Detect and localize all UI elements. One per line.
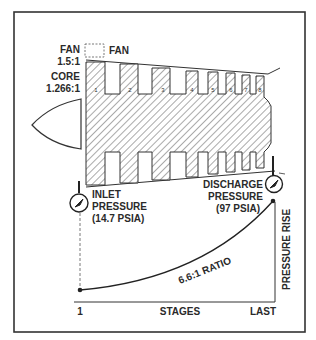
discharge-label-line1: DISCHARGE bbox=[203, 179, 263, 190]
inlet-label-line2: PRESSURE bbox=[92, 201, 147, 212]
fan-ratio-title: FAN bbox=[60, 44, 80, 55]
discharge-pressure-gauge-icon bbox=[266, 156, 286, 193]
core-ratio-value: 1.266:1 bbox=[46, 83, 80, 94]
casing-lip bbox=[268, 68, 280, 74]
x-axis-end-label: LAST bbox=[250, 306, 276, 317]
inlet-label-line3: (14.7 PSIA) bbox=[92, 213, 144, 224]
discharge-label-line2: PRESSURE bbox=[208, 191, 263, 202]
core-ratio-title: CORE bbox=[51, 71, 80, 82]
compressor-diagram: FAN 1.5:1 CORE 1.266:1 FAN 1 2 3 4 5 6 7… bbox=[0, 0, 316, 340]
discharge-label-line3: (97 PSIA) bbox=[216, 203, 260, 214]
fan-ratio-value: 1.5:1 bbox=[57, 56, 80, 67]
inlet-pressure-gauge-icon bbox=[70, 181, 88, 212]
compressor-rotor-hatched bbox=[86, 62, 271, 185]
y-axis-title: PRESSURE RISE bbox=[281, 209, 292, 290]
fan-box-label: FAN bbox=[109, 45, 129, 56]
outer-casing-top bbox=[86, 60, 268, 74]
inlet-label-line1: INLET bbox=[92, 189, 121, 200]
x-axis-start-label: 1 bbox=[77, 306, 83, 317]
ratio-annotation: 6.6:1 RATIO bbox=[177, 255, 233, 286]
fan-dashed-box bbox=[85, 44, 104, 57]
inlet-data-point bbox=[78, 288, 83, 293]
nose-cone-spinner bbox=[32, 99, 81, 149]
discharge-data-point bbox=[271, 199, 276, 204]
x-axis-title: STAGES bbox=[160, 306, 201, 317]
